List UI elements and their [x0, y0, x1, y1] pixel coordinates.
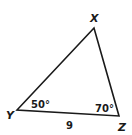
vertex-label-x: X	[89, 12, 99, 25]
triangle-diagram: X Y Z 50° 70° 9	[0, 0, 132, 135]
side-label-yz: 9	[66, 120, 73, 131]
angle-label-y: 50°	[31, 99, 50, 110]
vertex-label-y: Y	[6, 109, 15, 122]
angle-label-z: 70°	[95, 103, 114, 114]
vertex-label-z: Z	[117, 121, 127, 134]
